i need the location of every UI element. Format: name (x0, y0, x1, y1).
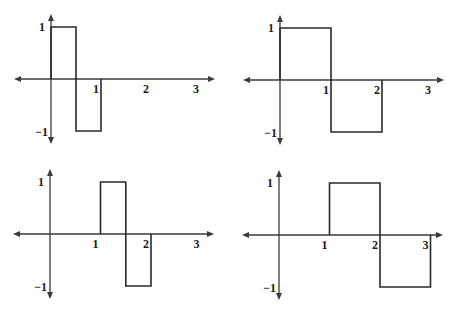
y-tick-label-1: 1 (38, 175, 44, 189)
x-tick-label-2: 2 (374, 83, 380, 97)
y-axis-up-arrow-icon (276, 170, 282, 177)
x-tick-label-1: 1 (93, 237, 99, 251)
x-axis-right-arrow-icon (437, 77, 444, 83)
figure: 1231−11231−11231−11231−1 (0, 0, 453, 310)
x-tick-label-1: 1 (323, 83, 329, 97)
x-tick-label-2: 2 (143, 82, 149, 96)
x-axis-right-arrow-icon (207, 231, 214, 237)
y-tick-label-1: 1 (268, 21, 274, 35)
x-tick-label-1: 1 (93, 82, 99, 96)
panel-3: 1231−1 (13, 169, 214, 299)
y-tick-label-neg1: −1 (35, 125, 48, 139)
y-axis-up-arrow-icon (47, 169, 53, 176)
y-tick-label-neg1: −1 (34, 280, 47, 294)
panel-4: 1231−1 (242, 170, 443, 300)
y-axis-down-arrow-icon (276, 293, 282, 300)
x-axis-left-arrow-icon (13, 231, 20, 237)
x-axis-right-arrow-icon (208, 76, 215, 82)
x-tick-label-3: 3 (423, 238, 429, 252)
x-tick-label-2: 2 (372, 238, 378, 252)
y-tick-label-1: 1 (39, 20, 45, 34)
y-tick-label-neg1: −1 (263, 281, 276, 295)
x-axis-left-arrow-icon (243, 77, 250, 83)
panel-1: 1231−1 (14, 14, 215, 144)
x-axis-left-arrow-icon (14, 76, 21, 82)
x-tick-label-1: 1 (322, 238, 328, 252)
y-axis-up-arrow-icon (48, 14, 54, 21)
x-axis-right-arrow-icon (436, 232, 443, 238)
x-tick-label-3: 3 (194, 237, 200, 251)
y-axis-up-arrow-icon (277, 15, 283, 22)
y-axis-down-arrow-icon (47, 292, 53, 299)
x-tick-label-2: 2 (143, 237, 149, 251)
y-tick-label-1: 1 (267, 176, 273, 190)
panel-2: 1231−1 (243, 15, 444, 145)
x-axis-left-arrow-icon (242, 232, 249, 238)
x-tick-label-3: 3 (193, 82, 199, 96)
y-axis-down-arrow-icon (48, 137, 54, 144)
x-tick-label-3: 3 (425, 83, 431, 97)
y-axis-down-arrow-icon (277, 138, 283, 145)
y-tick-label-neg1: −1 (264, 126, 277, 140)
